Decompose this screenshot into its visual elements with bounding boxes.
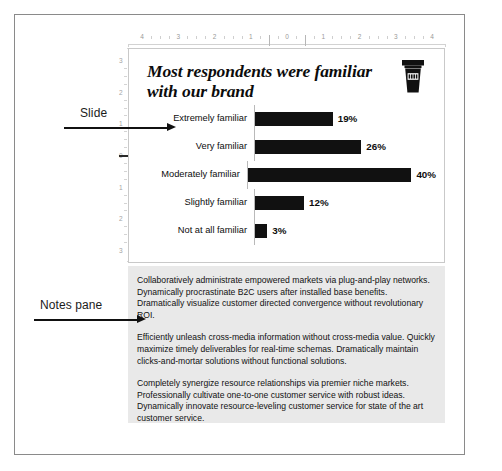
ruler-minor-tick (124, 242, 127, 243)
ruler-minor-tick (124, 179, 127, 180)
chart-category-label: Moderately familiar (143, 170, 247, 179)
chart-bar-area: 40% (247, 161, 436, 189)
ruler-minor-tick (124, 195, 127, 196)
ruler-track (128, 44, 446, 47)
chart-value-label: 26% (366, 142, 386, 152)
annotation-notes-pane: Notes pane (38, 298, 146, 324)
ruler-minor-tick (341, 36, 342, 39)
ruler-minor-tick (124, 68, 127, 69)
notes-pane[interactable]: Collaboratively administrate empowered m… (128, 266, 445, 423)
ruler-minor-tick (196, 36, 197, 39)
ruler-tick-label: 2 (358, 33, 362, 40)
coffee-cup-icon (398, 59, 428, 99)
chart-bar-area: 26% (254, 133, 436, 161)
ruler-minor-tick (124, 139, 127, 140)
annotation-slide: Slide (68, 106, 176, 132)
ruler-minor-tick (187, 36, 188, 39)
ruler-minor-tick (124, 226, 127, 227)
ruler-minor-tick (124, 163, 127, 164)
ruler-minor-tick (124, 147, 127, 148)
chart-category-label: Slightly familiar (143, 198, 254, 207)
ruler-minor-tick (296, 36, 297, 39)
ruler-tick-label: 4 (140, 33, 144, 40)
ruler-minor-tick (124, 234, 127, 235)
slide-title[interactable]: Most respondents were familiar with our … (147, 61, 382, 101)
ruler-minor-tick (124, 203, 127, 204)
chart-bar[interactable] (255, 196, 304, 210)
annotation-notes-pane-label: Notes pane (40, 298, 146, 312)
ruler-minor-tick (378, 36, 379, 39)
ruler-minor-tick (260, 36, 261, 39)
chart-value-label: 12% (309, 198, 329, 208)
ruler-minor-tick (414, 36, 415, 39)
chart-category-label: Not at all familiar (143, 226, 254, 235)
ruler-tick-label: 1 (119, 183, 123, 190)
chart-bar-area: 12% (254, 189, 436, 217)
ruler-minor-tick (124, 76, 127, 77)
chart-bar-row[interactable]: Slightly familiar12% (143, 189, 436, 217)
notes-paragraph[interactable]: Efficiently unleash cross-media informat… (137, 332, 436, 367)
annotation-notes-pane-arrow-icon (34, 315, 146, 324)
ruler-minor-tick (205, 36, 206, 39)
ruler-tick-label: 3 (119, 247, 123, 254)
notes-paragraph[interactable]: Completely synergize resource relationsh… (137, 378, 436, 424)
bar-chart[interactable]: Extremely familiar19%Very familiar26%Mod… (143, 105, 436, 254)
ruler-minor-tick (350, 36, 351, 39)
slide-canvas[interactable]: Most respondents were familiar with our … (128, 48, 445, 263)
ruler-minor-tick (124, 100, 127, 101)
ruler-tick-label: 1 (249, 33, 253, 40)
chart-bar-row[interactable]: Not at all familiar3% (143, 217, 436, 245)
chart-bar[interactable] (255, 112, 333, 126)
annotation-slide-arrow-icon (64, 123, 176, 132)
ruler-tick-label: 2 (119, 88, 123, 95)
annotation-slide-label: Slide (80, 106, 176, 120)
ruler-minor-tick (369, 36, 370, 39)
ruler-minor-tick (169, 36, 170, 39)
notes-paragraph[interactable]: Collaboratively administrate empowered m… (137, 275, 436, 321)
ruler-minor-tick (314, 36, 315, 39)
chart-bar-row[interactable]: Extremely familiar19% (143, 105, 436, 133)
ruler-major-tick (269, 35, 270, 46)
ruler-tick-label: 2 (119, 215, 123, 222)
ruler-tick-label: 3 (176, 33, 180, 40)
horizontal-ruler[interactable]: 432101234 (128, 34, 446, 47)
ruler-tick-label: 1 (321, 33, 325, 40)
chart-bar-row[interactable]: Moderately familiar40% (143, 161, 436, 189)
ruler-minor-tick (278, 36, 279, 39)
ruler-tick-label: 3 (394, 33, 398, 40)
chart-value-label: 19% (338, 114, 358, 124)
ruler-minor-tick (124, 171, 127, 172)
ruler-minor-tick (124, 84, 127, 85)
ruler-major-tick (305, 35, 306, 46)
ruler-minor-tick (423, 36, 424, 39)
chart-bar[interactable] (248, 168, 412, 182)
chart-value-label: 40% (416, 170, 436, 180)
ruler-minor-tick (224, 36, 225, 39)
ruler-tick-label: 2 (213, 33, 217, 40)
chart-bar[interactable] (255, 224, 267, 238)
ruler-tick-label: 3 (119, 57, 123, 64)
ruler-minor-tick (233, 36, 234, 39)
ruler-tick-label: 4 (430, 33, 434, 40)
chart-bar-area: 3% (254, 217, 436, 245)
ruler-tick-label: 0 (285, 33, 289, 40)
chart-value-label: 3% (272, 226, 286, 236)
ruler-minor-tick (405, 36, 406, 39)
ruler-minor-tick (387, 36, 388, 39)
chart-bar-area: 19% (254, 105, 436, 133)
ruler-minor-tick (124, 210, 127, 211)
ruler-minor-tick (332, 36, 333, 39)
ruler-minor-tick (160, 36, 161, 39)
ruler-minor-tick (151, 36, 152, 39)
chart-category-label: Very familiar (143, 142, 254, 151)
chart-bar[interactable] (255, 140, 361, 154)
chart-bar-row[interactable]: Very familiar26% (143, 133, 436, 161)
ruler-minor-tick (242, 36, 243, 39)
